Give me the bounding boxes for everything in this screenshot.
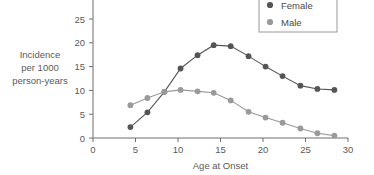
data-point-male: Male: age 14.2, 9.5	[211, 90, 217, 96]
data-point-male: Male: age 6.4, 8.4	[145, 95, 151, 101]
data-point-male: Male: age 12.3, 9.8	[195, 88, 201, 94]
legend-marker-female	[267, 2, 273, 8]
data-point-female: Female: age 6.4, 5.4	[145, 109, 151, 115]
y-tick-label: 10	[74, 85, 85, 96]
data-point-female: Female: age 26.4, 10.3	[315, 86, 321, 92]
data-point-male: Male: age 8.4, 9.7	[162, 89, 168, 95]
y-tick-label: 20	[74, 37, 85, 48]
y-axis-title-line: per 1000	[21, 62, 59, 73]
data-point-female: Female: age 24.4, 11	[298, 83, 304, 89]
data-point-female: Female: age 28.4, 10.1	[332, 87, 338, 93]
chart-canvas: 0510152025300510152025Age at OnsetIncide…	[0, 0, 374, 175]
x-tick-label: 30	[343, 144, 354, 155]
y-axis-title-line: person-years	[12, 75, 68, 86]
data-point-male: Male: age 18.3, 5.5	[246, 109, 252, 115]
legend-marker-male	[267, 19, 273, 25]
data-point-female: Female: age 12.3, 17.4	[195, 52, 201, 58]
data-point-male: Male: age 24.4, 2	[298, 126, 304, 132]
y-axis-title-line: Incidence	[20, 49, 61, 60]
data-point-female: Female: age 4.4, 2.3	[127, 124, 133, 130]
x-tick-label: 10	[173, 144, 184, 155]
data-point-male: Male: age 4.4, 6.9	[127, 102, 133, 108]
data-point-male: Male: age 28.4, 0.5	[332, 133, 338, 139]
data-point-male: Male: age 22.3, 3.2	[280, 120, 286, 126]
x-tick-label: 25	[300, 144, 311, 155]
y-tick-label: 0	[80, 133, 85, 144]
data-point-female: Female: age 18.3, 17.2	[246, 53, 252, 59]
x-tick-label: 5	[133, 144, 138, 155]
data-point-male: Male: age 16.2, 7.9	[228, 98, 234, 104]
data-point-female: Female: age 20.3, 15	[263, 64, 269, 70]
legend-label-male: Male	[281, 17, 302, 28]
x-tick-label: 15	[215, 144, 226, 155]
incidence-by-age-chart: 0510152025300510152025Age at OnsetIncide…	[0, 0, 374, 175]
data-point-male: Male: age 10.3, 10.1	[178, 87, 184, 93]
y-tick-label: 5	[80, 109, 85, 120]
data-point-female: Female: age 10.3, 14.6	[178, 66, 184, 72]
legend-label-female: Female	[281, 0, 313, 11]
x-tick-label: 20	[258, 144, 269, 155]
x-tick-label: 0	[90, 144, 95, 155]
data-point-female: Female: age 22.3, 13	[280, 73, 286, 79]
series-line-female	[130, 45, 334, 127]
y-tick-label: 25	[74, 14, 85, 25]
data-point-female: Female: age 16.2, 19.3	[228, 43, 234, 49]
x-axis-title: Age at Onset	[193, 160, 249, 171]
data-point-female: Female: age 14.2, 19.5	[211, 42, 217, 48]
data-point-male: Male: age 26.4, 1	[315, 130, 321, 136]
data-point-male: Male: age 20.3, 4.3	[263, 115, 269, 121]
y-tick-label: 15	[74, 61, 85, 72]
